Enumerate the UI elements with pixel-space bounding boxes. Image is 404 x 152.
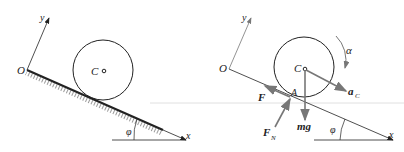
x-axis xyxy=(163,130,186,140)
label-center: C xyxy=(91,65,99,77)
ground-hatching xyxy=(25,71,163,135)
angle-arc xyxy=(340,119,345,140)
physics-diagram: O y x C φ O y x C φ A F F N xyxy=(0,0,404,152)
label-acceleration: a xyxy=(348,85,354,97)
label-angular-acceleration: α xyxy=(346,44,352,56)
label-acceleration-sub: C xyxy=(355,92,360,100)
left-panel: O y x C φ xyxy=(17,12,191,141)
incline-surface xyxy=(27,70,163,130)
label-angle: φ xyxy=(330,124,336,135)
center-point xyxy=(102,69,106,73)
label-normal-force-sub: N xyxy=(270,134,276,142)
y-axis xyxy=(27,18,49,70)
label-origin: O xyxy=(17,64,25,76)
label-gravity: mg xyxy=(297,120,312,132)
right-panel: O y x C φ A F F N mg a C α xyxy=(219,12,394,142)
label-normal-force: F xyxy=(262,126,271,138)
label-x-axis: x xyxy=(388,129,394,140)
label-contact-point: A xyxy=(290,87,298,98)
label-friction-force: F xyxy=(257,91,266,103)
label-center: C xyxy=(294,62,302,74)
angular-acceleration-arc xyxy=(336,36,346,68)
label-angle: φ xyxy=(126,126,132,137)
label-x-axis: x xyxy=(185,130,191,141)
y-axis xyxy=(229,18,251,69)
label-origin: O xyxy=(219,62,227,74)
label-y-axis: y xyxy=(241,12,247,23)
label-y-axis: y xyxy=(39,12,45,23)
